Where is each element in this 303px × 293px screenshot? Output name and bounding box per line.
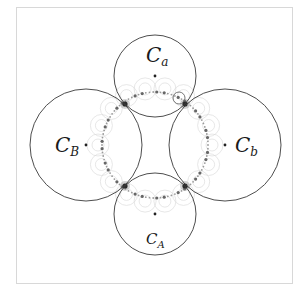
chain-dot (111, 175, 113, 177)
chain-dot (163, 196, 166, 199)
chain-dot (114, 110, 116, 112)
chain-dot (206, 151, 209, 154)
chain-dot (177, 191, 180, 194)
chain-dot (207, 144, 209, 146)
chain-dot (109, 116, 111, 118)
chain-dot (201, 119, 203, 121)
kissing-circles-diagram: CaCbCACB (0, 0, 303, 293)
chain-dot (141, 92, 144, 95)
chain-dot (203, 123, 205, 125)
chain-dot (177, 96, 180, 99)
chain-dot (109, 172, 111, 174)
chain-dot (145, 92, 147, 94)
chain-dot (206, 155, 208, 157)
chain-dot (101, 147, 104, 150)
chain-dot (128, 98, 130, 100)
chain-dot (106, 166, 108, 168)
chain-dot (155, 90, 158, 93)
chain-dot (101, 144, 103, 146)
chain-dot (192, 181, 194, 183)
chain-dot (102, 152, 104, 154)
chain-dot (102, 133, 104, 135)
chain-dot (149, 197, 151, 199)
chain-dot (204, 129, 207, 132)
chain-dot (204, 162, 206, 164)
chain-dot (197, 175, 199, 177)
chain-dot (101, 140, 104, 143)
center-dot-Ca (154, 75, 157, 78)
chain-dot (201, 169, 203, 171)
chain-dot (206, 133, 208, 135)
center-dot-Cb (224, 144, 227, 147)
chain-dot (181, 190, 183, 192)
chain-dot (104, 162, 107, 165)
chain-dot (198, 172, 201, 175)
chain-dot (174, 95, 176, 97)
chain-dot (206, 136, 209, 139)
chain-dot (107, 119, 110, 122)
chain-dot (138, 94, 140, 96)
label-subscript-Cb: b (250, 145, 258, 159)
chain-dot (155, 196, 158, 199)
chain-dot (149, 91, 151, 93)
label-subscript-CB: B (69, 145, 79, 159)
chain-dot (111, 113, 113, 115)
chain-dot (167, 196, 169, 198)
chain-dot (152, 91, 154, 93)
chain-dot (115, 107, 118, 110)
chain-dot (115, 180, 118, 183)
center-dot-CA (154, 213, 157, 216)
label-subscript-CA: A (156, 239, 164, 250)
chain-dot (128, 190, 130, 192)
chain-dot (134, 94, 137, 97)
chain-dot (131, 192, 133, 194)
chain-dot (131, 97, 133, 99)
chain-dot (181, 98, 183, 100)
chain-dot (102, 137, 104, 139)
chain-dot (102, 155, 104, 157)
chain-dot (160, 197, 162, 199)
chain-dot (145, 196, 147, 198)
chain-dot (207, 140, 209, 142)
chain-dot (107, 168, 110, 171)
chain-dot (138, 195, 140, 197)
chain-dot (192, 107, 194, 109)
chain-dot (114, 178, 116, 180)
chain-dot (160, 91, 162, 93)
chain-dot (106, 123, 108, 125)
chain-dot (197, 113, 199, 115)
chain-dot (141, 195, 144, 198)
chain-dot (134, 193, 137, 196)
chain-dot (204, 126, 206, 128)
chain-dot (207, 148, 209, 150)
chain-dot (204, 158, 207, 161)
chain-dot (104, 125, 107, 128)
chain-dot (203, 166, 205, 168)
chain-dot (171, 195, 173, 197)
chain-dot (167, 93, 169, 95)
chain-dot (198, 115, 201, 118)
chain-dot (152, 197, 154, 199)
chain-dot (171, 94, 173, 96)
chain-dot (194, 109, 197, 112)
chain-dot (103, 130, 105, 132)
chain-dot (194, 178, 197, 181)
label-subscript-Ca: a (161, 55, 168, 69)
chain-dot (174, 193, 176, 195)
center-dot-CB (85, 144, 88, 147)
chain-dot (103, 159, 105, 161)
chain-dot (163, 91, 166, 94)
